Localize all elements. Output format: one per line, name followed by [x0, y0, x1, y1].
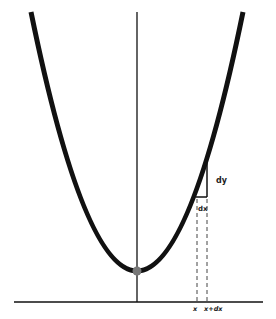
- vertex-point: [133, 267, 142, 276]
- label-dy: dy: [216, 176, 228, 185]
- parabola-diagram: dy dx x x+dx: [0, 0, 276, 319]
- label-x-plus-dx: x+dx: [203, 305, 223, 313]
- label-dx: dx: [198, 205, 208, 213]
- label-x: x: [192, 305, 198, 313]
